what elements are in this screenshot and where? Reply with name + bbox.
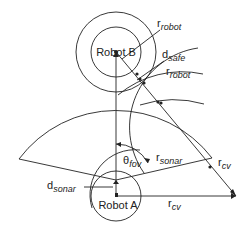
marker-dot [135, 72, 138, 75]
theta-fov-label: θfov [123, 154, 142, 169]
marker-dot [142, 81, 145, 84]
marker-dot [156, 100, 159, 103]
marker-dot [159, 101, 162, 104]
sonar-arc-mid [130, 48, 198, 173]
r-robot-mid-label: rrobot [166, 65, 191, 80]
r-sonar-label: rsonar [156, 151, 183, 166]
fov-left-boundary [19, 159, 116, 180]
robot-sensing-diagram: Robot B Robot A rrobot dsafe rrobot θfov… [0, 0, 251, 234]
r-cv-horizontal-label: rcv [168, 197, 181, 212]
marker-dot [208, 165, 211, 168]
d-sonar-label: dsonar [47, 179, 77, 194]
arrowhead-icon [144, 158, 150, 163]
robot-b-label: Robot B [96, 46, 136, 58]
r-cv-diagonal-label: rcv [218, 156, 231, 171]
sonar-arc-outer [118, 72, 203, 95]
sonar-arc-far [140, 100, 204, 105]
robot-a-center-marker [115, 193, 118, 197]
robot-a-label: Robot A [98, 199, 138, 211]
arrowhead-icon [113, 180, 119, 184]
r-robot-top-label: rrobot [157, 17, 182, 32]
cv-range-arc [19, 110, 212, 159]
arrowhead-icon [116, 142, 121, 147]
